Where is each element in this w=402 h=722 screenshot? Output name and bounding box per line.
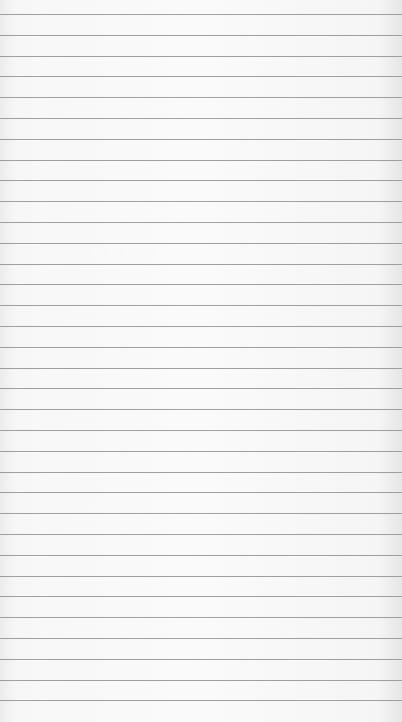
ruled-line [0, 513, 402, 514]
ruled-line [0, 35, 402, 36]
ruled-line [0, 492, 402, 493]
ruled-line [0, 326, 402, 327]
ruled-line [0, 700, 402, 701]
ruled-line [0, 56, 402, 57]
ruled-line [0, 472, 402, 473]
ruled-line [0, 638, 402, 639]
ruled-line [0, 76, 402, 77]
ruled-line [0, 222, 402, 223]
ruled-line [0, 97, 402, 98]
ruled-line [0, 680, 402, 681]
ruled-line [0, 388, 402, 389]
ruled-line [0, 180, 402, 181]
ruled-line [0, 284, 402, 285]
ruled-line [0, 118, 402, 119]
ruled-line [0, 347, 402, 348]
ruled-line [0, 430, 402, 431]
ruled-line [0, 555, 402, 556]
ruled-line [0, 534, 402, 535]
lined-paper [0, 0, 402, 722]
ruled-line [0, 596, 402, 597]
ruled-line [0, 14, 402, 15]
ruled-line [0, 617, 402, 618]
ruled-line [0, 409, 402, 410]
ruled-line [0, 201, 402, 202]
ruled-line [0, 576, 402, 577]
ruled-line [0, 368, 402, 369]
ruled-line [0, 264, 402, 265]
ruled-line [0, 139, 402, 140]
ruled-line [0, 160, 402, 161]
ruled-line [0, 243, 402, 244]
ruled-line [0, 659, 402, 660]
ruled-line [0, 451, 402, 452]
ruled-line [0, 305, 402, 306]
